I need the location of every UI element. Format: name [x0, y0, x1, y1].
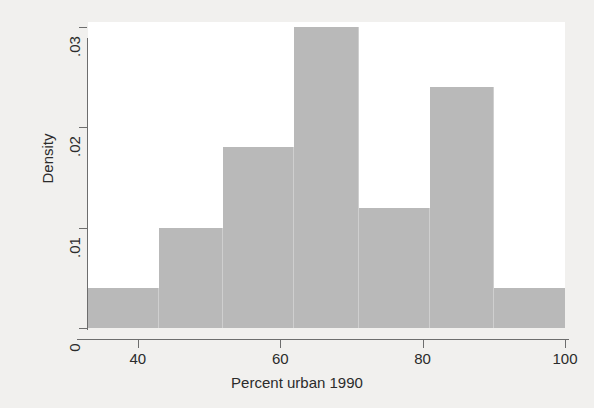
histogram-figure: 0.01.02.03 406080100 Density Percent urb… [0, 0, 594, 408]
y-tick-label: .02 [66, 127, 83, 167]
histogram-bar [159, 228, 223, 328]
histogram-bar [88, 288, 159, 328]
x-tick-label: 40 [129, 350, 146, 367]
histogram-bar [359, 208, 430, 328]
histogram-bar [223, 147, 294, 328]
x-tick-mark [565, 340, 566, 348]
x-axis-title: Percent urban 1990 [0, 374, 594, 391]
y-axis-title: Density [39, 133, 56, 183]
histogram-bar [494, 288, 565, 328]
x-tick-label: 60 [272, 350, 289, 367]
x-axis-line [77, 339, 569, 340]
histogram-bar [430, 87, 494, 328]
x-tick-label: 80 [414, 350, 431, 367]
plot-area [88, 22, 565, 328]
x-tick-mark [138, 340, 139, 348]
y-axis-line [87, 38, 88, 330]
histogram-bar [294, 27, 358, 328]
y-tick-label: .01 [66, 227, 83, 267]
x-tick-mark [280, 340, 281, 348]
y-tick-label: 0 [66, 328, 83, 368]
x-tick-label: 100 [552, 350, 577, 367]
bar-series [88, 22, 565, 328]
x-tick-mark [423, 340, 424, 348]
y-tick-label: .03 [66, 27, 83, 67]
